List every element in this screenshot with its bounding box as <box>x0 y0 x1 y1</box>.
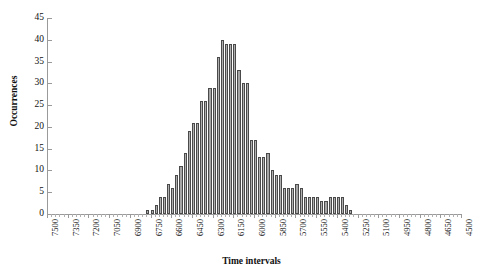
x-tick-minor <box>138 214 139 217</box>
x-tick-minor <box>184 214 185 217</box>
bar <box>295 184 298 214</box>
x-tick-minor <box>59 214 60 217</box>
bar <box>300 188 303 214</box>
bar <box>287 188 290 214</box>
x-tick-minor <box>175 214 176 217</box>
x-tick-label: 6600 <box>175 219 184 236</box>
x-tick-minor <box>432 214 433 217</box>
bar <box>192 123 195 214</box>
x-tick-major <box>130 214 131 218</box>
x-tick-label: 7200 <box>92 219 101 236</box>
y-tick-label: 5 <box>10 187 44 197</box>
x-tick-minor <box>217 214 218 217</box>
x-tick-minor <box>225 214 226 217</box>
x-tick-minor <box>300 214 301 217</box>
x-tick-label: 4650 <box>444 219 453 236</box>
bar <box>171 188 174 214</box>
bar <box>345 205 348 214</box>
x-tick-minor <box>453 214 454 217</box>
x-tick-minor <box>237 214 238 217</box>
bar <box>308 197 311 214</box>
bar <box>341 197 344 214</box>
x-tick-label: 5400 <box>341 219 350 236</box>
x-tick-minor <box>411 214 412 217</box>
x-tick-major <box>68 214 69 218</box>
x-tick-label: 4500 <box>465 219 474 236</box>
x-tick-minor <box>362 214 363 217</box>
bar <box>146 210 149 214</box>
bar <box>291 188 294 214</box>
x-tick-minor <box>101 214 102 217</box>
x-tick-minor <box>229 214 230 217</box>
x-tick-minor <box>142 214 143 217</box>
x-tick-minor <box>80 214 81 217</box>
x-tick-minor <box>345 214 346 217</box>
x-tick-major <box>171 214 172 218</box>
x-tick-minor <box>407 214 408 217</box>
bar <box>229 44 232 214</box>
bar <box>254 140 257 214</box>
bar <box>283 188 286 214</box>
x-tick-major <box>109 214 110 218</box>
x-tick-major <box>88 214 89 218</box>
x-tick-minor <box>105 214 106 217</box>
bar <box>151 210 154 214</box>
x-tick-major <box>399 214 400 218</box>
x-tick-minor <box>457 214 458 217</box>
x-tick-minor <box>146 214 147 217</box>
x-tick-minor <box>266 214 267 217</box>
x-tick-minor <box>55 214 56 217</box>
bar-series <box>47 18 461 214</box>
y-tick-label: 40 <box>10 35 44 45</box>
x-tick-minor <box>179 214 180 217</box>
x-tick-major <box>295 214 296 218</box>
bar <box>179 166 182 214</box>
x-tick-minor <box>155 214 156 217</box>
x-tick-minor <box>333 214 334 217</box>
x-tick-minor <box>262 214 263 217</box>
y-axis-title: Occurrences <box>9 61 19 141</box>
x-tick-minor <box>283 214 284 217</box>
bar <box>204 101 207 214</box>
x-tick-minor <box>97 214 98 217</box>
bar <box>167 184 170 214</box>
x-tick-label: 5700 <box>299 219 308 236</box>
x-tick-minor <box>204 214 205 217</box>
x-tick-minor <box>329 214 330 217</box>
bar <box>279 175 282 214</box>
x-tick-minor <box>117 214 118 217</box>
x-tick-minor <box>122 214 123 217</box>
x-tick-label: 4800 <box>424 219 433 236</box>
x-tick-major <box>378 214 379 218</box>
x-tick-minor <box>403 214 404 217</box>
x-tick-minor <box>76 214 77 217</box>
x-tick-minor <box>349 214 350 217</box>
x-axis-title: Time intervals <box>0 256 503 266</box>
bar <box>304 197 307 214</box>
x-tick-minor <box>415 214 416 217</box>
x-tick-minor <box>126 214 127 217</box>
x-tick-minor <box>250 214 251 217</box>
x-tick-minor <box>308 214 309 217</box>
bar <box>159 197 162 214</box>
x-tick-minor <box>84 214 85 217</box>
x-tick-minor <box>436 214 437 217</box>
bar <box>320 201 323 214</box>
x-tick-label: 6450 <box>196 219 205 236</box>
x-tick-minor <box>188 214 189 217</box>
bar <box>275 175 278 214</box>
x-tick-label: 6000 <box>258 219 267 236</box>
x-tick-minor <box>304 214 305 217</box>
x-tick-minor <box>370 214 371 217</box>
x-tick-minor <box>374 214 375 217</box>
x-tick-major <box>461 214 462 218</box>
x-tick-label: 5100 <box>382 219 391 236</box>
x-tick-minor <box>291 214 292 217</box>
x-tick-major <box>358 214 359 218</box>
x-tick-label: 7350 <box>72 219 81 236</box>
x-tick-minor <box>324 214 325 217</box>
x-tick-minor <box>382 214 383 217</box>
x-tick-minor <box>159 214 160 217</box>
bar <box>184 153 187 214</box>
x-tick-minor <box>391 214 392 217</box>
